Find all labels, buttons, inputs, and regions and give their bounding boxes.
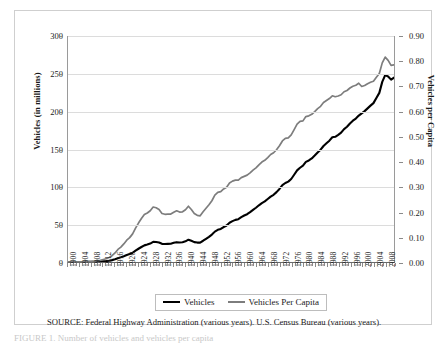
y-axis-right-tick-mark xyxy=(399,86,403,87)
figure-caption: FIGURE 1. Number of vehicles and vehicle… xyxy=(14,333,434,343)
x-axis-tick-mark xyxy=(348,263,349,266)
x-axis-tick-mark xyxy=(176,263,177,266)
series-line-vehicles xyxy=(68,75,394,262)
x-axis-tick-mark xyxy=(188,263,189,266)
x-axis-tick-mark xyxy=(277,263,278,266)
y-axis-right-tick-mark xyxy=(399,36,403,37)
y-axis-right-tick-label: 0.00 xyxy=(409,259,443,268)
x-axis-tick-mark xyxy=(159,263,160,266)
x-axis-tick-mark xyxy=(262,263,263,266)
x-axis-tick-mark xyxy=(170,263,171,266)
x-axis-tick-mark xyxy=(91,263,92,267)
x-axis-tick-mark xyxy=(265,263,266,266)
y-axis-left-tick-label: 150 xyxy=(29,146,63,155)
x-axis-tick-mark xyxy=(227,263,228,266)
y-axis-left-ticks: 050100150200250300 xyxy=(25,36,63,263)
x-axis-tick-mark xyxy=(371,263,372,266)
x-axis-tick-mark xyxy=(259,263,260,266)
x-axis-tick-mark xyxy=(165,263,166,266)
x-axis-tick-mark xyxy=(280,263,281,267)
x-axis-tick-mark xyxy=(111,263,112,266)
x-axis-tick-mark xyxy=(82,263,83,266)
x-axis-tick-mark xyxy=(241,263,242,266)
x-axis-tick-mark xyxy=(274,263,275,266)
y-axis-right-ticks: 0.000.100.200.300.400.500.600.700.800.90 xyxy=(399,36,439,263)
y-axis-left-tick-label: 0 xyxy=(29,259,63,268)
x-axis-tick-mark xyxy=(117,263,118,266)
figure-root: Vehicles (in millions) Vehicles per Capi… xyxy=(0,0,446,343)
x-axis-tick-mark xyxy=(200,263,201,266)
x-axis-tick-mark xyxy=(339,263,340,267)
x-axis-tick-mark xyxy=(309,263,310,266)
x-axis-tick-mark xyxy=(94,263,95,266)
y-axis-right-tick-mark xyxy=(399,162,403,163)
x-axis-tick-mark xyxy=(321,263,322,266)
x-axis-tick-mark xyxy=(120,263,121,266)
x-axis-tick-mark xyxy=(377,263,378,266)
legend-label-vehicles-per-capita: Vehicles Per Capita xyxy=(249,297,319,307)
x-axis-tick-mark xyxy=(85,263,86,266)
x-axis-tick-mark xyxy=(203,263,204,266)
y-axis-right-tick-label: 0.40 xyxy=(409,158,443,167)
y-axis-right-tick-mark xyxy=(399,61,403,62)
x-axis-tick-mark xyxy=(256,263,257,267)
x-axis-tick-mark xyxy=(300,263,301,266)
x-axis-tick-mark xyxy=(392,263,393,266)
y-axis-left-tick-mark xyxy=(59,187,63,188)
x-axis-tick-mark xyxy=(336,263,337,266)
x-axis-tick-mark xyxy=(283,263,284,266)
x-axis-tick-mark xyxy=(138,263,139,267)
gridline xyxy=(68,150,394,151)
x-axis-tick-mark xyxy=(295,263,296,266)
series-line-vehicles-per-capita xyxy=(68,57,394,262)
x-axis-tick-mark xyxy=(182,263,183,266)
y-axis-right-tick-label: 0.20 xyxy=(409,209,443,218)
x-axis-tick-mark xyxy=(342,263,343,266)
x-axis-tick-mark xyxy=(141,263,142,266)
x-axis: 1900190419081912191619201924192819321936… xyxy=(67,263,395,297)
x-axis-tick-mark xyxy=(286,263,287,266)
y-axis-right-tick-label: 0.60 xyxy=(409,108,443,117)
x-axis-tick-mark xyxy=(235,263,236,266)
x-axis-tick-mark xyxy=(271,263,272,266)
y-axis-right-tick-mark xyxy=(399,238,403,239)
x-axis-tick-mark xyxy=(79,263,80,267)
x-axis-tick-mark xyxy=(333,263,334,266)
x-axis-tick-mark xyxy=(153,263,154,266)
y-axis-left-tick-label: 100 xyxy=(29,183,63,192)
x-axis-tick-mark xyxy=(224,263,225,266)
y-axis-right-tick-label: 0.70 xyxy=(409,82,443,91)
gridline xyxy=(68,225,394,226)
y-axis-left-tick-label: 300 xyxy=(29,32,63,41)
y-axis-right-tick-mark xyxy=(399,213,403,214)
y-axis-left-tick-label: 200 xyxy=(29,108,63,117)
x-axis-tick-mark xyxy=(105,263,106,266)
x-axis-tick-mark xyxy=(312,263,313,266)
x-axis-tick-mark xyxy=(253,263,254,266)
y-axis-right-tick-label: 0.30 xyxy=(409,183,443,192)
x-axis-tick-mark xyxy=(123,263,124,266)
x-axis-tick-mark xyxy=(67,263,68,267)
x-axis-tick-mark xyxy=(354,263,355,266)
gridline xyxy=(68,74,394,75)
x-axis-tick-mark xyxy=(147,263,148,266)
y-axis-left-tick-mark xyxy=(59,150,63,151)
x-axis-tick-mark xyxy=(289,263,290,266)
x-axis-tick-mark xyxy=(360,263,361,266)
x-axis-tick-mark xyxy=(212,263,213,266)
figure-frame: Vehicles (in millions) Vehicles per Capi… xyxy=(14,10,432,325)
x-axis-tick-mark xyxy=(238,263,239,266)
plot-area xyxy=(67,36,395,263)
x-axis-tick-mark xyxy=(247,263,248,266)
x-axis-tick-mark xyxy=(194,263,195,266)
x-axis-tick-mark xyxy=(167,263,168,266)
x-axis-tick-mark xyxy=(365,263,366,266)
x-axis-tick-mark xyxy=(129,263,130,266)
x-axis-tick-mark xyxy=(156,263,157,266)
y-axis-left-tick-mark xyxy=(59,263,63,264)
x-axis-tick-mark xyxy=(330,263,331,266)
x-axis-tick-mark xyxy=(306,263,307,266)
x-axis-tick-mark xyxy=(76,263,77,266)
x-axis-tick-mark xyxy=(357,263,358,266)
x-axis-tick-mark xyxy=(162,263,163,267)
